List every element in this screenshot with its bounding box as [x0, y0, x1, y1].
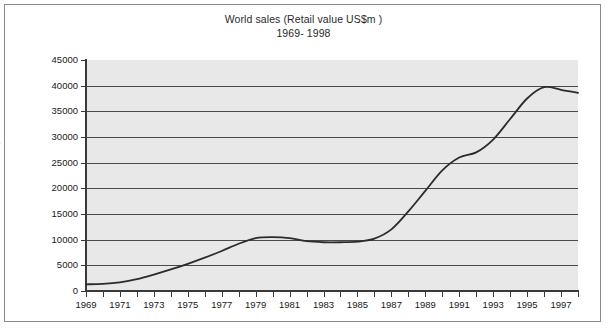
x-tick-label: 1979 — [239, 299, 273, 310]
x-tick-mark — [510, 292, 511, 297]
x-tick-mark — [171, 292, 172, 297]
x-tick-label: 1989 — [408, 299, 442, 310]
x-tick-label: 1969 — [69, 299, 103, 310]
x-tick-mark — [442, 292, 443, 297]
x-tick-mark — [290, 292, 291, 297]
x-tick-mark — [357, 292, 358, 297]
x-tick-mark — [256, 292, 257, 297]
x-tick-mark — [476, 292, 477, 297]
x-tick-mark — [86, 292, 87, 297]
x-tick-label: 1997 — [544, 299, 578, 310]
x-axis-ticks-group: 1969197119731975197719791981198319851987… — [0, 0, 607, 328]
x-tick-label: 1983 — [307, 299, 341, 310]
x-tick-mark — [561, 292, 562, 297]
x-tick-mark — [374, 292, 375, 297]
x-tick-mark — [340, 292, 341, 297]
x-tick-mark — [391, 292, 392, 297]
y-axis-line — [85, 59, 87, 292]
chart-screenshot: World sales (Retail value US$m ) 1969- 1… — [0, 0, 607, 328]
x-tick-label: 1975 — [171, 299, 205, 310]
x-tick-label: 1995 — [510, 299, 544, 310]
x-tick-label: 1987 — [374, 299, 408, 310]
x-tick-mark — [120, 292, 121, 297]
x-tick-label: 1993 — [476, 299, 510, 310]
x-tick-label: 1991 — [442, 299, 476, 310]
x-tick-mark — [408, 292, 409, 297]
x-tick-mark — [493, 292, 494, 297]
x-tick-mark — [307, 292, 308, 297]
x-tick-mark — [222, 292, 223, 297]
x-tick-mark — [527, 292, 528, 297]
x-tick-mark — [324, 292, 325, 297]
x-axis-line — [85, 290, 579, 292]
x-tick-label: 1971 — [103, 299, 137, 310]
x-tick-mark — [103, 292, 104, 297]
x-tick-label: 1985 — [340, 299, 374, 310]
x-tick-label: 1977 — [205, 299, 239, 310]
x-tick-mark — [273, 292, 274, 297]
x-tick-label: 1973 — [137, 299, 171, 310]
x-tick-mark — [425, 292, 426, 297]
x-tick-label: 1981 — [273, 299, 307, 310]
x-tick-mark — [239, 292, 240, 297]
x-tick-mark — [137, 292, 138, 297]
x-tick-mark — [578, 292, 579, 297]
x-tick-mark — [154, 292, 155, 297]
x-tick-mark — [205, 292, 206, 297]
x-tick-mark — [544, 292, 545, 297]
y-axis-title: US$m — [0, 132, 1, 160]
x-tick-mark — [459, 292, 460, 297]
x-tick-mark — [188, 292, 189, 297]
